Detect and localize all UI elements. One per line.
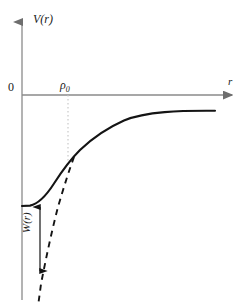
rho-subscript: 0 xyxy=(66,85,70,94)
rho-zero-label: ρ0 xyxy=(60,79,70,94)
x-axis-label: r xyxy=(228,76,232,87)
work-label: W(r) xyxy=(21,212,32,233)
potential-energy-figure: V(r) r 0 ρ0 W(r) xyxy=(0,0,248,306)
plot-canvas xyxy=(0,0,248,306)
origin-label: 0 xyxy=(8,81,14,93)
potential-curve xyxy=(22,111,215,206)
y-axis-label: V(r) xyxy=(33,13,53,25)
